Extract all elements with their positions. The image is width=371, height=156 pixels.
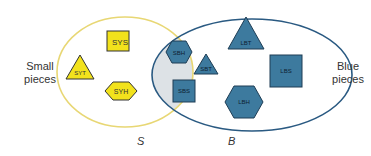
set-b-label: B — [228, 135, 235, 147]
blue-pieces-line1: Blue — [326, 60, 370, 73]
label-lbt: LBT — [236, 37, 256, 50]
label-lbs: LBS — [276, 65, 296, 78]
small-pieces-line2: pieces — [18, 73, 62, 86]
blue-pieces-label: Blue pieces — [326, 60, 370, 86]
label-syt: SYT — [70, 67, 90, 80]
label-sbh: SBH — [169, 47, 189, 60]
small-pieces-line1: Small — [18, 60, 62, 73]
label-sys: SYS — [112, 36, 124, 49]
label-sbs: SBS — [174, 85, 194, 98]
label-syh: SYH — [111, 85, 131, 98]
small-pieces-label: Small pieces — [18, 60, 62, 86]
label-sbt: SBT — [196, 63, 216, 76]
label-lbh: LBH — [234, 96, 254, 109]
blue-pieces-line2: pieces — [326, 73, 370, 86]
set-s-label: S — [137, 135, 144, 147]
